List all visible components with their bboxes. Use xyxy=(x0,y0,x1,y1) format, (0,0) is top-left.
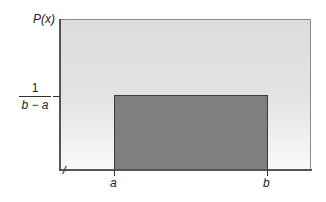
x-tick-label-b: b xyxy=(263,177,270,189)
y-tick-density xyxy=(53,96,60,97)
x-axis xyxy=(59,169,312,171)
fraction-bar xyxy=(19,96,51,97)
y-tick-label-fraction: 1 b − a xyxy=(19,82,51,112)
fraction-numerator: 1 xyxy=(19,82,51,95)
y-axis xyxy=(59,19,61,171)
x-tick-label-a: a xyxy=(110,177,117,189)
y-axis-label: P(x) xyxy=(33,13,55,25)
uniform-density-rectangle xyxy=(114,95,268,170)
fraction-denominator: b − a xyxy=(19,99,51,112)
